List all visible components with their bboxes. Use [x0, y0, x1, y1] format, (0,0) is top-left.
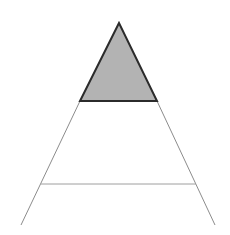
- pyramid-diagram: [0, 0, 230, 235]
